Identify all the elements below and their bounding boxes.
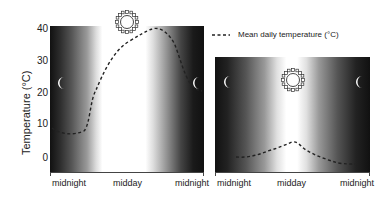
right-temperature-curve [0, 0, 390, 200]
crescent-moon-icon [354, 75, 366, 89]
crescent-moon-icon [222, 75, 234, 89]
sun-icon [281, 68, 305, 92]
